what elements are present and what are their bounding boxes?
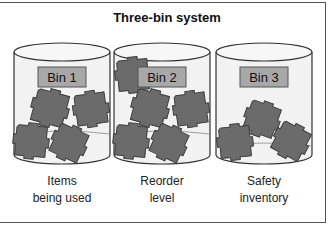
bin-2-label: Bin 2 (147, 70, 177, 85)
caption-line: being used (12, 190, 112, 207)
bin-2: Bin 2 (111, 43, 211, 167)
bin-1: Bin 1 (11, 43, 111, 167)
bin-2-caption: Reorder level (112, 173, 212, 207)
bin-3-caption: Safety inventory (214, 173, 314, 207)
item-icon (111, 121, 150, 160)
bin-3-label: Bin 3 (249, 70, 279, 85)
caption-line: Items (12, 173, 112, 190)
bin-3: Bin 3 (215, 43, 315, 165)
item-icon (11, 121, 50, 160)
caption-line: Safety (214, 173, 314, 190)
bin-1-caption: Items being used (12, 173, 112, 207)
caption-line: Reorder (112, 173, 212, 190)
caption-line: level (112, 190, 212, 207)
item-icon (215, 122, 254, 161)
caption-line: inventory (214, 190, 314, 207)
bin-1-label: Bin 1 (47, 70, 77, 85)
